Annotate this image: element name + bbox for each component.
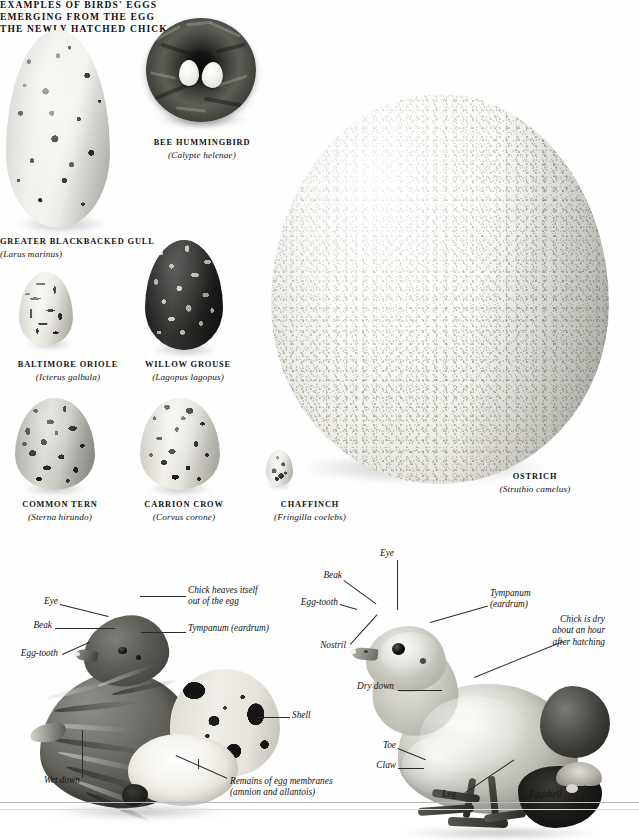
leader-hatched-tympanum [430, 605, 488, 622]
hatched-chick-beak [351, 646, 378, 661]
section-title-emerging: EMERGING FROM THE EGG [0, 12, 639, 24]
label-hatched-nostril: Nostril [292, 640, 346, 651]
label-emerging-chick-heaves-line1: Chick heaves itself [188, 585, 258, 596]
specimen-latin-name: (Struthio camelus) [455, 484, 615, 496]
label-hatched-chick-dry-line1: Chick is dry [495, 614, 605, 625]
nest-bee-hummingbird [146, 18, 256, 122]
bottom-rule [0, 802, 639, 803]
emerging-chick-tympanum [136, 655, 141, 660]
label-hatched-chick-dry-line2: about an hour [495, 625, 605, 636]
label-hatched-egg-tooth: Egg-tooth [282, 597, 338, 608]
label-hatched-tympanum-line2: (eardrum) [490, 599, 531, 610]
label-emerging-eye: Eye [0, 596, 58, 607]
page-title: EXAMPLES OF BIRDS' EGGS [0, 0, 639, 12]
hatched-chick-eye [392, 643, 405, 655]
eggshell-rim [556, 762, 602, 786]
egg-chaffinch [266, 450, 293, 486]
specimen-label-ostrich: OSTRICH (Struthio camelus) [455, 472, 615, 495]
specimen-latin-name: (Corvus corone) [128, 512, 240, 524]
leader-hatched-egg-tooth [340, 604, 358, 610]
label-emerging-shell: Shell [292, 710, 311, 721]
hatched-chick-nostril [364, 650, 368, 653]
specimen-common-name: CARRION CROW [128, 500, 240, 511]
label-emerging-remains: Remains of egg membranes (amnion and all… [230, 776, 333, 799]
leader-hatched-claw [398, 768, 424, 769]
hatched-chick-rump [540, 686, 610, 758]
specimen-latin-name: (Icterus galbula) [0, 372, 138, 384]
specimen-label-chaffinch: CHAFFINCH (Fringilla coelebs) [250, 500, 370, 523]
label-emerging-chick-heaves-line2: out of the egg [188, 596, 258, 607]
egg-common-tern [15, 398, 95, 490]
specimen-label-bee-hummingbird: BEE HUMMINGBIRD (Calypte helenae) [131, 138, 273, 161]
hatched-chick-egg-tooth [350, 649, 356, 654]
leader-hatched-dry-down [398, 690, 442, 691]
specimen-common-name: WILLOW GROUSE [123, 360, 253, 371]
specimen-latin-name: (Calypte helenae) [131, 150, 273, 162]
label-emerging-egg-tooth: Egg-tooth [0, 648, 58, 659]
label-hatched-claw: Claw [348, 760, 396, 771]
hummingbird-egg-left [179, 60, 199, 86]
label-hatched-leg: Leg [442, 789, 456, 800]
specimen-common-name: OSTRICH [455, 472, 615, 483]
leader-hatched-beak [343, 580, 376, 604]
label-emerging-remains-line2: (amnion and allantois) [230, 787, 333, 798]
specimen-label-willow-grouse: WILLOW GROUSE (Lagopus lagopus) [123, 360, 253, 383]
bottom-rule-secondary [0, 809, 639, 810]
specimen-common-name: GREATER BLACKBACKED GULL [0, 237, 160, 248]
label-hatched-dry-down: Dry down [330, 681, 394, 692]
specimen-common-name: COMMON TERN [5, 500, 115, 511]
egg-greater-blackbacked-gull [6, 30, 110, 228]
specimen-label-common-tern: COMMON TERN (Sterna hirundo) [5, 500, 115, 523]
specimen-label-carrion-crow: CARRION CROW (Corvus corone) [128, 500, 240, 523]
hatched-chick-tympanum [420, 658, 426, 664]
leader-hatched-eye [397, 560, 398, 610]
specimen-latin-name: (Lagopus lagopus) [123, 372, 253, 384]
specimen-common-name: BALTIMORE ORIOLE [0, 360, 138, 371]
leader-emerging-wet-down [82, 730, 83, 778]
emerging-chick-eye [118, 647, 127, 654]
label-hatched-chick-dry: Chick is dry about an hour after hatchin… [495, 614, 605, 648]
label-hatched-eye: Eye [380, 548, 394, 559]
specimen-latin-name: (Fringilla coelebs) [250, 512, 370, 524]
label-emerging-wet-down: Wet down [22, 775, 80, 786]
label-emerging-remains-line1: Remains of egg membranes [230, 776, 333, 787]
label-hatched-beak: Beak [296, 570, 342, 581]
label-hatched-tympanum-line1: Tympanum [490, 588, 531, 599]
egg-ostrich [271, 94, 609, 484]
label-hatched-toe: Toe [356, 740, 396, 751]
leader-emerging-eye [60, 604, 109, 617]
leader-emerging-shell [258, 717, 290, 718]
label-emerging-tympanum: Tympanum (eardrum) [188, 623, 269, 634]
section-title-hatched: THE NEWLY HATCHED CHICK [0, 24, 639, 36]
specimen-common-name: BEE HUMMINGBIRD [131, 138, 273, 149]
label-hatched-tympanum: Tympanum (eardrum) [490, 588, 531, 611]
specimen-latin-name: (Sterna hirundo) [5, 512, 115, 524]
specimen-latin-name: (Larus marinus) [0, 249, 160, 261]
specimen-label-greater-blackbacked-gull: GREATER BLACKBACKED GULL (Larus marinus) [0, 237, 160, 260]
label-emerging-chick-heaves: Chick heaves itself out of the egg [188, 585, 258, 608]
egg-baltimore-oriole [19, 272, 73, 346]
emerging-chick-egg-tooth [74, 652, 80, 656]
label-emerging-beak: Beak [0, 620, 52, 631]
leader-emerging-tympanum [141, 632, 186, 633]
specimen-label-baltimore-oriole: BALTIMORE ORIOLE (Icterus galbula) [0, 360, 138, 383]
egg-carrion-crow [140, 398, 220, 490]
specimen-common-name: CHAFFINCH [250, 500, 370, 511]
leader-emerging-remains-tick [198, 759, 199, 769]
leader-emerging-beak [55, 628, 115, 629]
leader-emerging-chick-heaves [140, 596, 186, 597]
label-hatched-eggshell: Eggshell [529, 789, 562, 800]
eggshell-highlight [566, 784, 578, 793]
